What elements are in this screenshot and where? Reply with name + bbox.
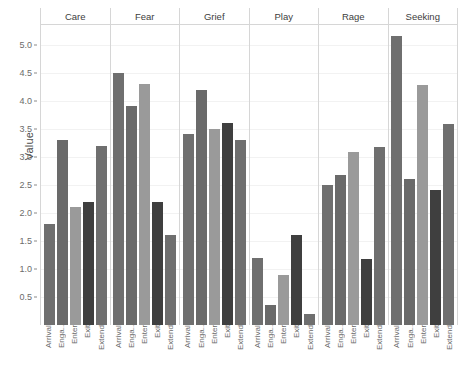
bar[interactable] <box>252 258 263 325</box>
x-tick-label: Arrival <box>391 325 402 383</box>
bar[interactable] <box>430 190 441 325</box>
bar[interactable] <box>304 314 315 325</box>
x-tick-label: Enter <box>139 325 150 383</box>
bar[interactable] <box>278 275 289 325</box>
bar[interactable] <box>83 202 94 325</box>
gridline <box>250 73 319 74</box>
x-tick-label: Enga.. <box>196 325 207 383</box>
x-labels-grief: ArrivalEnga..EnterExitExtend <box>179 325 249 386</box>
y-tick-mark <box>34 268 37 269</box>
x-tick-label: Exit <box>222 325 233 383</box>
x-tick-label: Exit <box>152 325 163 383</box>
bar[interactable] <box>44 224 55 325</box>
gridline <box>180 73 249 74</box>
x-tick-label: Enter <box>418 325 429 383</box>
bar[interactable] <box>335 175 346 325</box>
x-tick-label: Extend <box>444 325 455 383</box>
y-tick-mark <box>34 296 37 297</box>
bar[interactable] <box>165 235 176 325</box>
x-tick-label: Extend <box>305 325 316 383</box>
x-tick-label: Extend <box>374 325 385 383</box>
y-tick-label: 4.5 <box>19 68 32 78</box>
x-labels-play: ArrivalEnga..EnterExitExtend <box>249 325 319 386</box>
facet-header-fear: Fear <box>111 8 181 24</box>
x-tick-label: Arrival <box>43 325 54 383</box>
gridline <box>319 101 388 102</box>
gridline <box>41 101 110 102</box>
bar[interactable] <box>222 123 233 325</box>
bar[interactable] <box>113 73 124 325</box>
bar[interactable] <box>291 235 302 325</box>
bar[interactable] <box>417 85 428 325</box>
x-tick-label: Exit <box>291 325 302 383</box>
x-tick-label: Enter <box>69 325 80 383</box>
gridline <box>250 101 319 102</box>
panel-fear <box>111 25 181 325</box>
bar[interactable] <box>139 84 150 325</box>
x-axis-labels: ArrivalEnga..EnterExitExtendArrivalEnga.… <box>40 325 458 386</box>
gridline <box>250 157 319 158</box>
bar[interactable] <box>322 185 333 325</box>
bar[interactable] <box>404 179 415 325</box>
x-tick-label: Extend <box>165 325 176 383</box>
bar[interactable] <box>126 106 137 325</box>
y-tick-label: 2.0 <box>19 208 32 218</box>
x-tick-label: Arrival <box>322 325 333 383</box>
x-tick-label: Exit <box>82 325 93 383</box>
x-tick-label: Exit <box>431 325 442 383</box>
bar[interactable] <box>196 90 207 326</box>
x-tick-label: Arrival <box>252 325 263 383</box>
gridline <box>250 241 319 242</box>
x-tick-label: Extend <box>235 325 246 383</box>
gridline <box>180 45 249 46</box>
y-tick-mark <box>34 240 37 241</box>
y-tick-mark <box>34 156 37 157</box>
bar[interactable] <box>443 124 454 325</box>
facet-header-seeking: Seeking <box>389 8 459 24</box>
bar[interactable] <box>70 207 81 325</box>
y-tick-mark <box>34 128 37 129</box>
bar[interactable] <box>374 147 385 325</box>
facet-strip: CareFearGriefPlayRageSeeking <box>40 8 458 25</box>
facet-header-care: Care <box>40 8 111 24</box>
x-labels-seeking: ArrivalEnga..EnterExitExtend <box>388 325 458 386</box>
bar[interactable] <box>209 129 220 325</box>
bar[interactable] <box>361 259 372 325</box>
x-tick-label: Enter <box>348 325 359 383</box>
chart-root: Value 0.51.01.52.02.53.03.54.04.55.0 Car… <box>0 0 460 386</box>
gridline <box>250 45 319 46</box>
y-tick-mark <box>34 44 37 45</box>
y-tick-label: 0.5 <box>19 292 32 302</box>
gridline <box>319 129 388 130</box>
bar[interactable] <box>96 146 107 325</box>
y-tick-label: 5.0 <box>19 40 32 50</box>
bar[interactable] <box>265 305 276 325</box>
x-tick-label: Enter <box>209 325 220 383</box>
gridline <box>111 45 180 46</box>
y-tick-label: 1.5 <box>19 236 32 246</box>
facet-header-play: Play <box>250 8 320 24</box>
bar[interactable] <box>391 36 402 325</box>
x-tick-label: Arrival <box>182 325 193 383</box>
gridline <box>250 129 319 130</box>
x-labels-rage: ArrivalEnga..EnterExitExtend <box>319 325 389 386</box>
x-tick-label: Enga.. <box>56 325 67 383</box>
y-tick-label: 1.0 <box>19 264 32 274</box>
bar[interactable] <box>152 202 163 325</box>
bar[interactable] <box>183 134 194 325</box>
gridline <box>41 45 110 46</box>
y-axis-ticks: 0.51.01.52.02.53.03.54.04.55.0 <box>0 0 38 386</box>
gridline <box>41 73 110 74</box>
y-tick-label: 3.0 <box>19 152 32 162</box>
x-tick-label: Exit <box>361 325 372 383</box>
x-tick-label: Extend <box>96 325 107 383</box>
bar[interactable] <box>57 140 68 325</box>
bar[interactable] <box>235 140 246 325</box>
y-tick-mark <box>34 100 37 101</box>
bar[interactable] <box>348 152 359 325</box>
y-tick-mark <box>34 72 37 73</box>
x-tick-label: Enga.. <box>405 325 416 383</box>
x-tick-label: Enga.. <box>265 325 276 383</box>
y-tick-mark <box>34 184 37 185</box>
gridline <box>41 129 110 130</box>
